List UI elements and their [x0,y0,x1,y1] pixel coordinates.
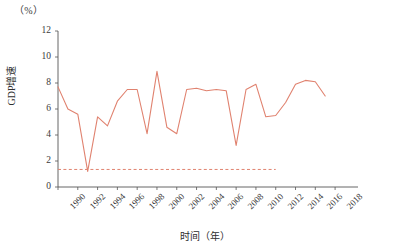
series-line-0 [58,71,325,171]
axis-group [55,31,358,190]
series-group [58,71,325,171]
plot-area [0,0,400,252]
gdp-growth-chart: （%） GDP增速 时间（年） 024681012 19901992199419… [0,0,400,252]
